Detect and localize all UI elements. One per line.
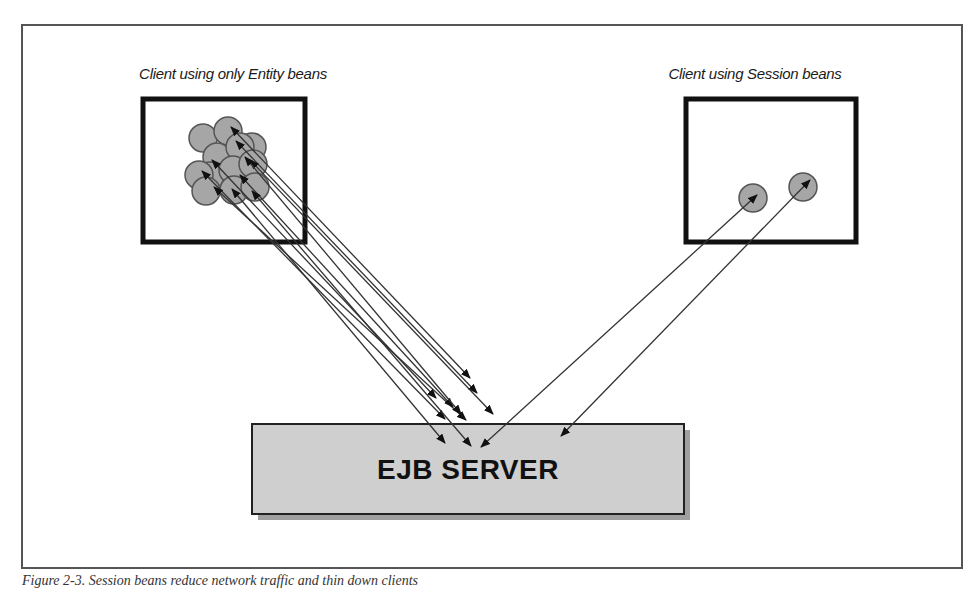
session-client-title: Client using Session beans (668, 65, 842, 82)
entity-arrow (245, 157, 461, 414)
entity-arrow (240, 175, 453, 407)
entity-arrow (236, 141, 477, 393)
entity-arrow (232, 189, 445, 443)
figure-caption: Figure 2-3. Session beans reduce network… (22, 573, 418, 589)
entity-arrow (250, 160, 493, 414)
entity-arrow (214, 187, 466, 420)
entity-arrow (212, 160, 436, 398)
entity-arrow (202, 171, 445, 419)
entity-arrow (252, 191, 471, 446)
session-arrow (481, 195, 757, 447)
entity-bean (241, 173, 269, 201)
entity-client-title: Client using only Entity beans (139, 65, 328, 82)
entity-bean (192, 177, 220, 205)
ejb-server-label: EJB SERVER (377, 454, 559, 485)
entity-arrow (231, 127, 470, 378)
